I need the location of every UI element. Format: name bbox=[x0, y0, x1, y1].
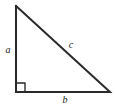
side-label-a: a bbox=[3, 45, 13, 55]
side-label-c: c bbox=[66, 40, 76, 50]
triangle-graphic bbox=[0, 0, 115, 108]
triangle-outline bbox=[16, 6, 110, 92]
side-label-b: b bbox=[60, 95, 70, 105]
right-triangle-figure: a b c bbox=[0, 0, 115, 108]
right-angle-marker-icon bbox=[16, 83, 25, 92]
